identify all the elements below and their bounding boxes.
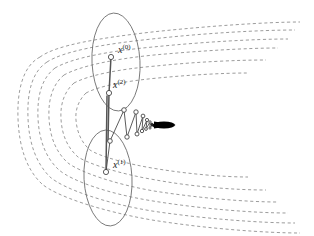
label-x0-superscript: (0)	[122, 43, 130, 51]
label-x2: x(2)	[113, 80, 126, 90]
label-x2-superscript: (2)	[117, 78, 125, 86]
iterate-marker-x10	[145, 118, 148, 121]
iterate-marker-x12	[149, 121, 151, 123]
iterate-marker-x1	[103, 169, 108, 174]
figure-canvas	[0, 0, 314, 236]
label-x1: x(1)	[113, 160, 126, 170]
iterate-marker-x9	[140, 129, 143, 132]
iterate-marker-x5	[125, 135, 129, 139]
iterate-marker-x3	[108, 139, 113, 144]
optimization-figure: x(0) x(2) x(1)	[0, 0, 314, 236]
iterate-marker-x7	[135, 132, 139, 136]
label-x1-superscript: (1)	[117, 158, 125, 166]
line-search-segment-2	[106, 96, 107, 172]
iterate-marker-x8	[141, 114, 145, 118]
iterate-marker-x13	[149, 127, 151, 129]
iterate-marker-x4	[122, 108, 127, 113]
iterate-marker-x2	[106, 90, 111, 95]
iterate-marker-x11	[145, 128, 148, 131]
figure-background	[0, 0, 314, 236]
label-x0: x(0)	[118, 45, 131, 55]
iterate-marker-x0	[108, 54, 113, 59]
line-search-segment-1	[108, 93, 109, 141]
iterate-marker-x6	[134, 110, 138, 114]
